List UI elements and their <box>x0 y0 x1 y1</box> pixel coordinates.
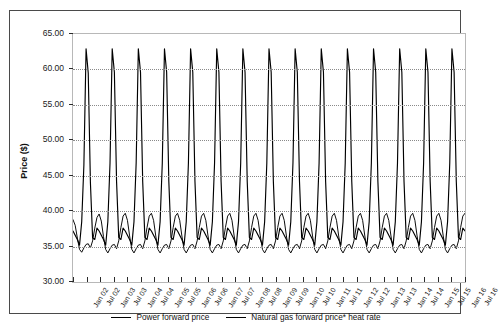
chart-legend: Power forward price Natural gas forward … <box>10 313 482 322</box>
series-line-power <box>73 49 465 245</box>
legend-item-power: Power forward price <box>111 313 209 322</box>
x-axis-tick-mark <box>316 277 317 282</box>
y-axis-tick-label: 50.00 <box>43 134 64 144</box>
x-axis-tick-mark <box>303 277 304 282</box>
x-axis-tick-mark <box>343 277 344 282</box>
x-axis-tick-mark <box>438 277 439 282</box>
gridline <box>73 140 465 141</box>
x-axis-tick-mark <box>127 277 128 282</box>
x-axis-tick-mark <box>222 277 223 282</box>
gridline <box>73 211 465 212</box>
x-axis-tick-mark <box>330 277 331 282</box>
series-lines <box>73 34 465 282</box>
x-axis-tick-mark <box>208 277 209 282</box>
y-axis-tick-label: 35.00 <box>43 241 64 251</box>
x-axis-tick-mark <box>262 277 263 282</box>
x-axis-tick-mark <box>249 277 250 282</box>
x-axis-tick-mark <box>397 277 398 282</box>
x-axis-tick-mark <box>276 277 277 282</box>
legend-line-swatch-power <box>111 317 131 318</box>
x-axis-tick-mark <box>384 277 385 282</box>
x-axis-tick-mark <box>370 277 371 282</box>
y-axis-tick-mark <box>69 139 73 140</box>
y-axis-tick-mark <box>69 33 73 34</box>
y-axis-tick-mark <box>69 175 73 176</box>
legend-label-natural-gas: Natural gas forward price* heat rate <box>251 313 380 322</box>
y-axis-tick-label: 40.00 <box>43 205 64 215</box>
y-axis-tick-mark <box>69 210 73 211</box>
x-axis-tick-mark <box>424 277 425 282</box>
gridline <box>73 247 465 248</box>
y-axis-tick-mark <box>69 104 73 105</box>
y-axis-tick-label: 55.00 <box>43 99 64 109</box>
x-axis-tick-mark <box>154 277 155 282</box>
x-axis-tick-mark <box>411 277 412 282</box>
y-axis-tick-label: 30.00 <box>43 276 64 286</box>
legend-item-natural-gas: Natural gas forward price* heat rate <box>226 313 380 322</box>
plot-area <box>72 33 466 283</box>
y-axis-label: Price ($) <box>19 143 29 179</box>
gridline <box>73 69 465 70</box>
gridline <box>73 176 465 177</box>
chart-frame: Price ($) 65.0060.0055.0050.0045.0040.00… <box>9 10 461 314</box>
x-axis-tick-mark <box>73 277 74 282</box>
x-axis-tick-mark <box>181 277 182 282</box>
x-axis-tick-mark <box>465 277 466 282</box>
x-axis-tick-mark <box>289 277 290 282</box>
x-axis-tick-mark <box>168 277 169 282</box>
y-axis-tick-label: 65.00 <box>43 28 64 38</box>
gridline <box>73 105 465 106</box>
x-axis-tick-mark <box>100 277 101 282</box>
x-axis-tick-mark <box>451 277 452 282</box>
x-axis-tick-mark <box>195 277 196 282</box>
x-axis-tick-mark <box>235 277 236 282</box>
y-axis-tick-label: 45.00 <box>43 170 64 180</box>
y-axis-tick-mark <box>69 246 73 247</box>
y-axis-tick-mark <box>69 68 73 69</box>
x-axis-tick-mark <box>357 277 358 282</box>
x-axis-tick-mark <box>114 277 115 282</box>
legend-label-power: Power forward price <box>136 313 209 322</box>
plot-inner <box>73 34 465 282</box>
x-axis-tick-mark <box>87 277 88 282</box>
legend-line-swatch-natural-gas <box>226 317 246 318</box>
x-axis-tick-mark <box>141 277 142 282</box>
y-axis-tick-label: 60.00 <box>43 63 64 73</box>
